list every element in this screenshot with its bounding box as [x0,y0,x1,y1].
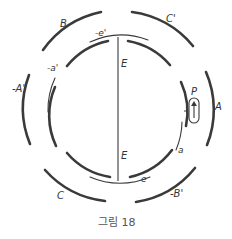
label-minus-a-prime-inner: -a' [47,63,58,73]
label-p: P [191,86,198,97]
label-b: B [60,18,67,29]
label-e-upper: E [121,58,128,69]
inner-arc-bottom-left [67,153,110,177]
label-minus-e-prime: -e' [95,28,106,38]
outer-arc-b [43,12,101,50]
label-minus-a-prime: -A' [12,83,25,94]
commutator-winding-diagram: B C' -A' A C -B' -e' -a' e a E E P 그림 18 [0,0,232,239]
inner-arc-top-left [67,41,108,66]
inner-arc-top-right [128,41,170,65]
label-c: C [57,190,64,201]
label-a: A [214,101,222,112]
label-c-prime: C' [166,13,176,24]
label-e: e [141,174,147,184]
label-a-inner: a [178,145,184,155]
outer-arc-c-prime [132,12,193,46]
label-e-lower: E [121,150,128,161]
outer-arc-a [206,72,214,145]
arrow-up-icon [191,101,197,106]
inner-arc-left [49,87,56,146]
inner-arc-bottom-right [130,150,172,177]
figure-caption: 그림 18 [98,216,136,229]
inner-arc-right [181,82,187,126]
label-minus-b-prime: -B' [170,188,183,199]
